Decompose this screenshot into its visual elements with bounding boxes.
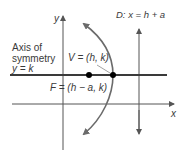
vertex-label: V = (h, k) xyxy=(68,52,109,63)
axis-of-symmetry-label-line1: Axis of xyxy=(12,42,42,53)
vertex-point xyxy=(110,72,116,78)
vertex-leader-line xyxy=(97,65,110,73)
axis-of-symmetry-equation: y = k xyxy=(11,63,34,74)
focus-point xyxy=(86,72,92,78)
focus-label: F = (h − a, k) xyxy=(50,82,107,93)
directrix-label: D: x = h + a xyxy=(116,9,165,20)
parabola-upper-branch xyxy=(84,24,113,75)
x-axis-label: x xyxy=(170,108,177,119)
parabola-diagram: x y D: x = h + a Axis of symmetry y = k … xyxy=(0,0,189,153)
y-axis-label: y xyxy=(53,13,60,24)
